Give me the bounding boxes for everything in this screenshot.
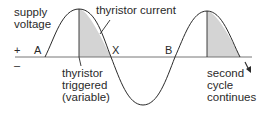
second-cycle-label: second cycle continues <box>207 67 256 103</box>
trigger-pointer <box>79 57 81 66</box>
conduction-region-second <box>207 11 240 57</box>
point-a-label: A <box>34 44 41 56</box>
point-b-label: B <box>165 44 172 56</box>
supply-voltage-label: supply voltage <box>14 6 51 30</box>
current-label-leader <box>100 20 110 34</box>
minus-sign: – <box>14 59 20 71</box>
thyristor-triggered-label: thyristor triggered (variable) <box>62 67 110 103</box>
thyristor-current-label: thyristor current <box>96 4 176 16</box>
point-x-label: X <box>112 44 119 56</box>
plus-sign: + <box>14 44 20 56</box>
thyristor-waveform-diagram: supply voltage thyristor current thyrist… <box>0 0 269 115</box>
conduction-region-first <box>79 9 111 57</box>
